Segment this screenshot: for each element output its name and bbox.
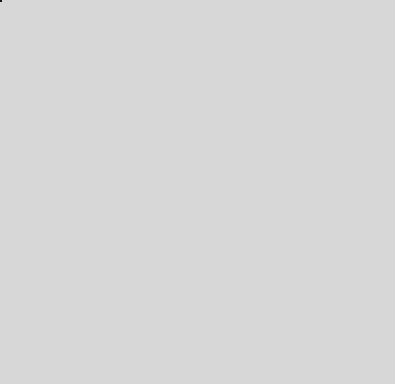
- geometry-drawing: [0, 0, 395, 384]
- figure-canvas: [0, 0, 395, 384]
